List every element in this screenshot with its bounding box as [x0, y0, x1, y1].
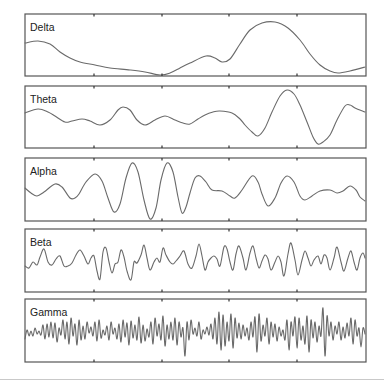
- theta-wave: [25, 90, 365, 144]
- panel-label-alpha: Alpha: [30, 165, 57, 177]
- panel-theta: Theta: [25, 86, 366, 148]
- x-axis-ticks: [94, 14, 297, 362]
- beta-wave: [25, 243, 365, 280]
- panel-frame: [25, 14, 366, 76]
- delta-wave: [25, 22, 365, 75]
- panel-frame: [25, 86, 366, 148]
- eeg-band-chart: Delta Theta Alpha Beta Gamma: [0, 0, 384, 384]
- divider: [0, 379, 384, 380]
- panel-label-theta: Theta: [30, 93, 57, 105]
- panel-delta: Delta: [25, 14, 366, 76]
- alpha-wave: [25, 163, 365, 219]
- panel-frame: [25, 229, 366, 292]
- panel-beta: Beta: [25, 229, 366, 292]
- panel-frame: [25, 158, 366, 221]
- panel-gamma: Gamma: [25, 299, 366, 362]
- panel-alpha: Alpha: [25, 158, 366, 221]
- gamma-wave: [25, 308, 365, 356]
- panel-label-beta: Beta: [30, 236, 52, 248]
- panel-label-delta: Delta: [30, 21, 55, 33]
- panel-label-gamma: Gamma: [30, 306, 68, 318]
